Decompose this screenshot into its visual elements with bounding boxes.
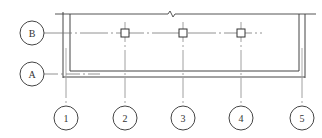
axis-bubble-4: 4 — [229, 106, 253, 130]
right-wall — [299, 14, 305, 78]
axis-bubble-2: 2 — [113, 106, 137, 130]
axis-label-1: 1 — [64, 113, 69, 124]
axis-label-5: 5 — [300, 113, 305, 124]
axis-bubble-5: 5 — [290, 106, 314, 130]
column-b3 — [179, 29, 187, 37]
axis-bubble-3: 3 — [171, 106, 195, 130]
axis-label-4: 4 — [239, 113, 244, 124]
axis-bubble-b: B — [20, 21, 44, 45]
axis-bubble-1: 1 — [54, 106, 78, 130]
column-b2 — [121, 29, 129, 37]
axis-bubble-a: A — [20, 62, 44, 86]
left-wall — [63, 12, 70, 78]
axis-label-a: A — [28, 69, 36, 80]
column-b4 — [237, 29, 245, 37]
axis-label-3: 3 — [181, 113, 186, 124]
axis-label-2: 2 — [123, 113, 128, 124]
structural-grid-drawing: B A 1 2 3 4 5 — [0, 0, 322, 138]
top-boundary-line — [55, 11, 316, 17]
axis-label-b: B — [29, 28, 36, 39]
